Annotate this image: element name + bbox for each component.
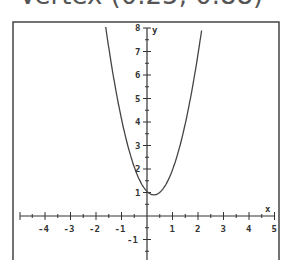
x-tick-label: 1 <box>170 224 175 234</box>
y-axis-label: y <box>152 25 158 35</box>
tick-labels: -4-3-2-112345-112345678 <box>38 23 277 245</box>
y-tick-label: 4 <box>135 117 141 127</box>
x-tick-label: 4 <box>246 224 252 234</box>
x-tick-label: -3 <box>64 224 75 234</box>
x-tick-label: -4 <box>38 224 49 234</box>
y-tick-label: 3 <box>135 141 140 151</box>
y-tick-label: 8 <box>135 23 140 33</box>
plot-area: -4-3-2-112345-112345678 x y <box>0 0 282 260</box>
x-axis-label: x <box>265 204 271 214</box>
x-tick-label: -1 <box>115 224 126 234</box>
y-tick-label: -1 <box>127 235 138 245</box>
x-tick-label: 2 <box>195 224 200 234</box>
y-tick-label: 7 <box>135 47 140 57</box>
x-tick-label: 5 <box>272 224 277 234</box>
y-tick-label: 5 <box>135 94 140 104</box>
y-tick-label: 6 <box>135 70 140 80</box>
x-tick-label: 3 <box>221 224 226 234</box>
plot-frame <box>13 22 279 260</box>
x-tick-label: -2 <box>89 224 100 234</box>
y-tick-label: 1 <box>135 188 140 198</box>
parabola-curve <box>106 27 202 195</box>
